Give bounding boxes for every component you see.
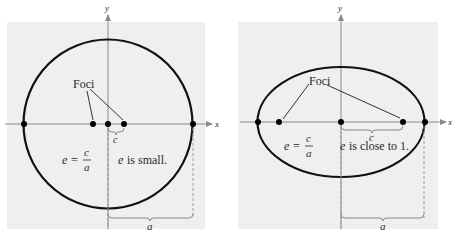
right-eccentricity-description: e is close to 1. [340,139,409,153]
left-vertex-point [21,121,27,127]
left-foci-label: Foci [73,77,95,91]
left-c-label: c [113,134,118,145]
right-focus-point-2 [400,119,406,125]
left-focus-point-1 [90,121,96,127]
right-panel-ellipse: x y Foci c e = c a e is close to 1. [238,3,452,232]
right-panel-background [238,22,438,229]
left-center-point [105,121,111,127]
right-y-axis-label: y [337,3,342,13]
left-a-label: a [147,220,153,232]
right-center-point [338,119,344,125]
left-formula-numerator: c [84,146,89,158]
left-formula-e: e = [62,153,78,167]
right-focus-point-1 [276,119,282,125]
right-x-axis-label: x [447,117,452,127]
right-formula-numerator: c [306,132,311,144]
right-formula-denominator: a [306,147,312,159]
right-foci-label: Foci [309,74,331,88]
right-desc-text: is close to 1. [349,139,409,153]
right-right-vertex-point [422,119,428,125]
left-focus-point-2 [121,121,127,127]
right-left-vertex-point [255,119,261,125]
right-desc-e: e [340,139,346,153]
left-desc-e: e [118,153,124,167]
right-a-label: a [380,220,386,232]
right-vertex-point-left-panel [190,121,196,127]
left-panel-circle: x y Foci c e = c a e is small. [5,3,219,232]
left-y-axis-label: y [104,3,109,13]
left-desc-text: is small. [127,153,167,167]
right-formula-e: e = [284,139,300,153]
left-formula-denominator: a [84,161,90,173]
left-x-axis-label: x [214,119,219,129]
eccentricity-diagram: x y Foci c e = c a e is small. [0,0,456,239]
